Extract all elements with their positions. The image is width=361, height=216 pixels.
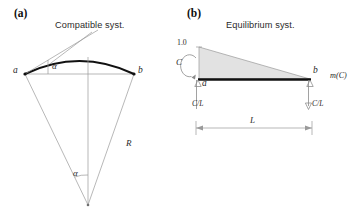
angle-label-alpha-center: α	[73, 169, 78, 178]
figure-svg	[0, 0, 361, 216]
moment-couple-label-C: C	[176, 58, 182, 67]
panel-title-a: Compatible syst.	[55, 21, 125, 30]
moment-couple-arc	[181, 55, 196, 77]
span-label-L: L	[250, 116, 255, 125]
roller-support-b	[307, 80, 313, 87]
radius-label-R: R	[126, 139, 132, 148]
moment-couple-arrowhead	[192, 75, 196, 80]
reaction-label-right: C/L	[312, 100, 323, 108]
panel-tag-a: (a)	[14, 8, 27, 20]
moment-diagram-shape	[199, 47, 310, 79]
support-point-b	[132, 72, 135, 75]
reaction-label-left: C/L	[192, 100, 203, 108]
arch-center-point	[87, 204, 90, 207]
panel-tag-b: (b)	[187, 8, 201, 20]
arch-curve	[25, 61, 134, 74]
figure-canvas: (a) Compatible syst. a b α α R (b) Equil…	[0, 0, 361, 216]
peak-value-label: 1.0	[177, 39, 187, 47]
angle-label-alpha-top: α	[52, 62, 57, 71]
radius-line-left	[25, 74, 88, 205]
node-label-a-left: a	[13, 66, 18, 76]
node-label-b-left: b	[138, 66, 143, 76]
span-arrowhead-right	[305, 126, 312, 131]
span-arrowhead-left	[196, 126, 203, 131]
node-label-a-right: a	[202, 79, 207, 89]
moment-diagram-label: m(C)	[330, 72, 347, 80]
support-point-a	[23, 72, 26, 75]
pin-support-a	[195, 80, 201, 87]
panel-title-b: Equilibrium syst.	[226, 21, 295, 30]
tangent-line-at-a	[25, 30, 98, 74]
node-label-b-right: b	[313, 66, 318, 76]
